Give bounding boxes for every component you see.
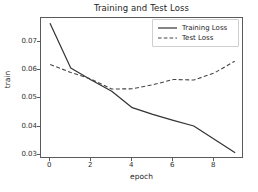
chart-legend: Training Loss Test Loss [152, 19, 239, 47]
x-axis-tick-label: 8 [201, 161, 225, 169]
legend-label-test-loss: Test Loss [182, 34, 213, 43]
x-axis-label: epoch [40, 172, 243, 181]
legend-dashed-line-icon [157, 34, 178, 42]
x-axis-tick-label: 2 [78, 161, 102, 169]
chart-title: Training and Test Loss [40, 3, 243, 13]
test-loss-line [50, 61, 235, 89]
legend-solid-line-icon [157, 24, 178, 32]
y-axis-tick-label: 0.04 [3, 122, 37, 130]
legend-item-training-loss: Training Loss [157, 23, 234, 33]
legend-label-training-loss: Training Loss [182, 24, 227, 33]
y-axis-tick-label: 0.07 [3, 37, 37, 45]
chart-figure: Training and Test Loss 0.030.040.050.060… [0, 0, 258, 192]
x-axis-tick-label: 0 [37, 161, 61, 169]
y-axis-tick-label: 0.03 [3, 150, 37, 158]
x-axis-tick-label: 4 [119, 161, 143, 169]
legend-item-test-loss: Test Loss [157, 33, 234, 43]
x-axis-tick-label: 6 [160, 161, 184, 169]
y-axis-label: train [3, 60, 12, 100]
